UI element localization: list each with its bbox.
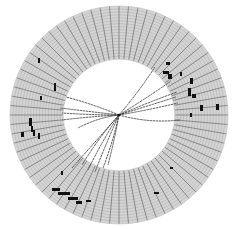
hit-cell xyxy=(40,96,42,100)
hit-cell xyxy=(61,171,63,175)
interaction-vertex xyxy=(118,114,120,116)
hit-cell xyxy=(86,200,91,202)
event-display xyxy=(0,0,235,229)
hit-cell xyxy=(31,126,33,132)
hit-cell xyxy=(163,71,169,74)
hit-cell xyxy=(38,58,40,63)
hit-cell xyxy=(190,113,192,117)
hit-cell xyxy=(52,188,60,191)
hit-cell xyxy=(29,118,32,126)
hit-cell xyxy=(200,105,203,111)
hit-cell xyxy=(180,72,182,76)
hit-cell xyxy=(168,74,172,79)
hit-cell xyxy=(58,192,70,195)
hit-cell xyxy=(188,88,191,96)
hit-cell xyxy=(68,197,78,200)
hit-cell xyxy=(76,201,82,204)
hit-cell xyxy=(154,192,159,194)
hit-cell xyxy=(38,133,40,139)
hit-cell xyxy=(54,83,56,91)
hit-cell xyxy=(192,94,196,98)
hit-cell xyxy=(170,167,173,169)
hit-cell xyxy=(190,78,193,84)
hit-cell xyxy=(166,62,170,65)
hit-cell xyxy=(33,130,35,136)
hit-cell xyxy=(216,104,219,110)
hit-cell xyxy=(21,132,24,137)
